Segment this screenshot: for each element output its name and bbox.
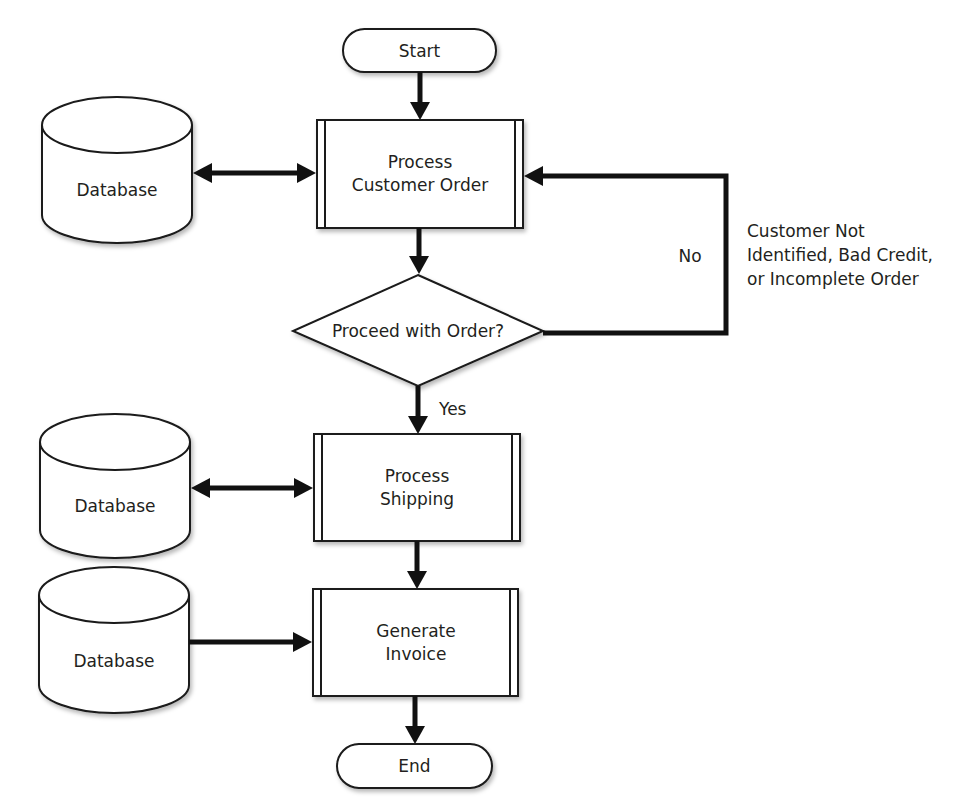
arrow-process-order-to-decision [409, 228, 429, 274]
database-cylinder-2: Database [40, 414, 190, 558]
process-shipping-line1: Process [385, 466, 450, 486]
generate-invoice-box: Generate Invoice [313, 589, 518, 696]
flowchart-canvas: Start Process Customer Order Database Pr… [0, 0, 967, 804]
process-customer-order-box: Process Customer Order [317, 120, 523, 228]
arrow-shipping-to-invoice [407, 541, 427, 589]
database-1-label: Database [76, 180, 157, 200]
arrow-database-2-process-shipping-bidirectional [191, 478, 313, 498]
yes-edge-label: Yes [438, 399, 467, 419]
generate-invoice-line1: Generate [376, 621, 455, 641]
database-cylinder-3: Database [39, 567, 189, 713]
no-reason-line2: Identified, Bad Credit, [747, 245, 933, 265]
process-customer-order-line1: Process [388, 152, 453, 172]
database-cylinder-1: Database [42, 97, 192, 243]
database-2-label: Database [74, 496, 155, 516]
no-reason-line1: Customer Not [747, 221, 865, 241]
end-terminal: End [337, 744, 492, 788]
no-edge-label: No [678, 246, 701, 266]
arrow-database-3-to-invoice [189, 632, 312, 652]
decision-diamond: Proceed with Order? [293, 275, 543, 386]
arrow-start-to-process-order [410, 72, 430, 120]
generate-invoice-line2: Invoice [386, 644, 447, 664]
arrow-database-1-process-order-bidirectional [193, 163, 316, 183]
start-terminal: Start [343, 29, 496, 72]
no-reason-annotation: Customer Not Identified, Bad Credit, or … [747, 221, 933, 289]
decision-label: Proceed with Order? [332, 321, 504, 341]
process-customer-order-line2: Customer Order [352, 175, 488, 195]
no-reason-line3: or Incomplete Order [747, 269, 919, 289]
process-shipping-box: Process Shipping [314, 434, 520, 541]
database-3-label: Database [73, 651, 154, 671]
process-shipping-line2: Shipping [380, 489, 454, 509]
yes-arrow [408, 386, 428, 434]
end-label: End [398, 756, 430, 776]
arrow-invoice-to-end [405, 696, 425, 744]
start-label: Start [399, 41, 441, 61]
